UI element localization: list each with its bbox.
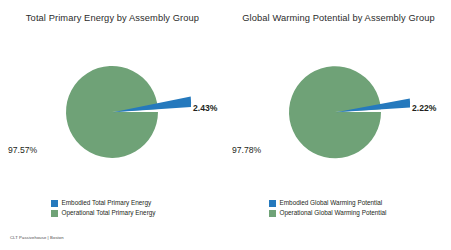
legend-total-primary-energy: Embodied Total Primary Energy Operationa… bbox=[0, 199, 225, 217]
pie-slice-operational-global-warming-potential bbox=[289, 66, 381, 158]
pie-value-label-operational-global-warming-potential: 97.78% bbox=[232, 145, 261, 155]
pie-value-label-operational-total-primary-energy: 97.57% bbox=[8, 145, 37, 155]
pie-value-label-embodied-total-primary-energy: 2.43% bbox=[193, 103, 217, 113]
pie-chart-total-primary-energy bbox=[0, 0, 225, 200]
legend-swatch-embodied-icon bbox=[269, 200, 276, 207]
legend-label-operational: Operational Total Primary Energy bbox=[62, 209, 156, 217]
pie-svg-global-warming-potential bbox=[226, 0, 451, 200]
legend-item-operational-total-primary-energy[interactable]: Operational Total Primary Energy bbox=[51, 209, 175, 217]
legend-label-embodied: Embodied Total Primary Energy bbox=[62, 199, 152, 207]
legend-label-operational: Operational Global Warming Potential bbox=[280, 209, 387, 217]
slide-canvas: Total Primary Energy by Assembly Group 9… bbox=[0, 0, 451, 250]
pie-svg-total-primary-energy bbox=[0, 0, 225, 200]
footer-credit-note: CLT Passivehouse | Boston bbox=[10, 235, 64, 241]
pie-value-label-embodied-global-warming-potential: 2.22% bbox=[412, 103, 436, 113]
chart-panel-total-primary-energy: Total Primary Energy by Assembly Group 9… bbox=[0, 0, 225, 250]
legend-item-operational-global-warming-potential[interactable]: Operational Global Warming Potential bbox=[269, 209, 409, 217]
legend-swatch-embodied-icon bbox=[51, 200, 58, 207]
legend-item-embodied-global-warming-potential[interactable]: Embodied Global Warming Potential bbox=[269, 199, 409, 207]
pie-slice-operational-total-primary-energy bbox=[66, 66, 158, 158]
legend-label-embodied: Embodied Global Warming Potential bbox=[280, 199, 383, 207]
legend-swatch-operational-icon bbox=[269, 210, 276, 217]
chart-panel-global-warming-potential: Global Warming Potential by Assembly Gro… bbox=[226, 0, 451, 250]
legend-global-warming-potential: Embodied Global Warming Potential Operat… bbox=[226, 199, 451, 217]
legend-item-embodied-total-primary-energy[interactable]: Embodied Total Primary Energy bbox=[51, 199, 175, 207]
pie-chart-global-warming-potential bbox=[226, 0, 451, 200]
legend-swatch-operational-icon bbox=[51, 210, 58, 217]
